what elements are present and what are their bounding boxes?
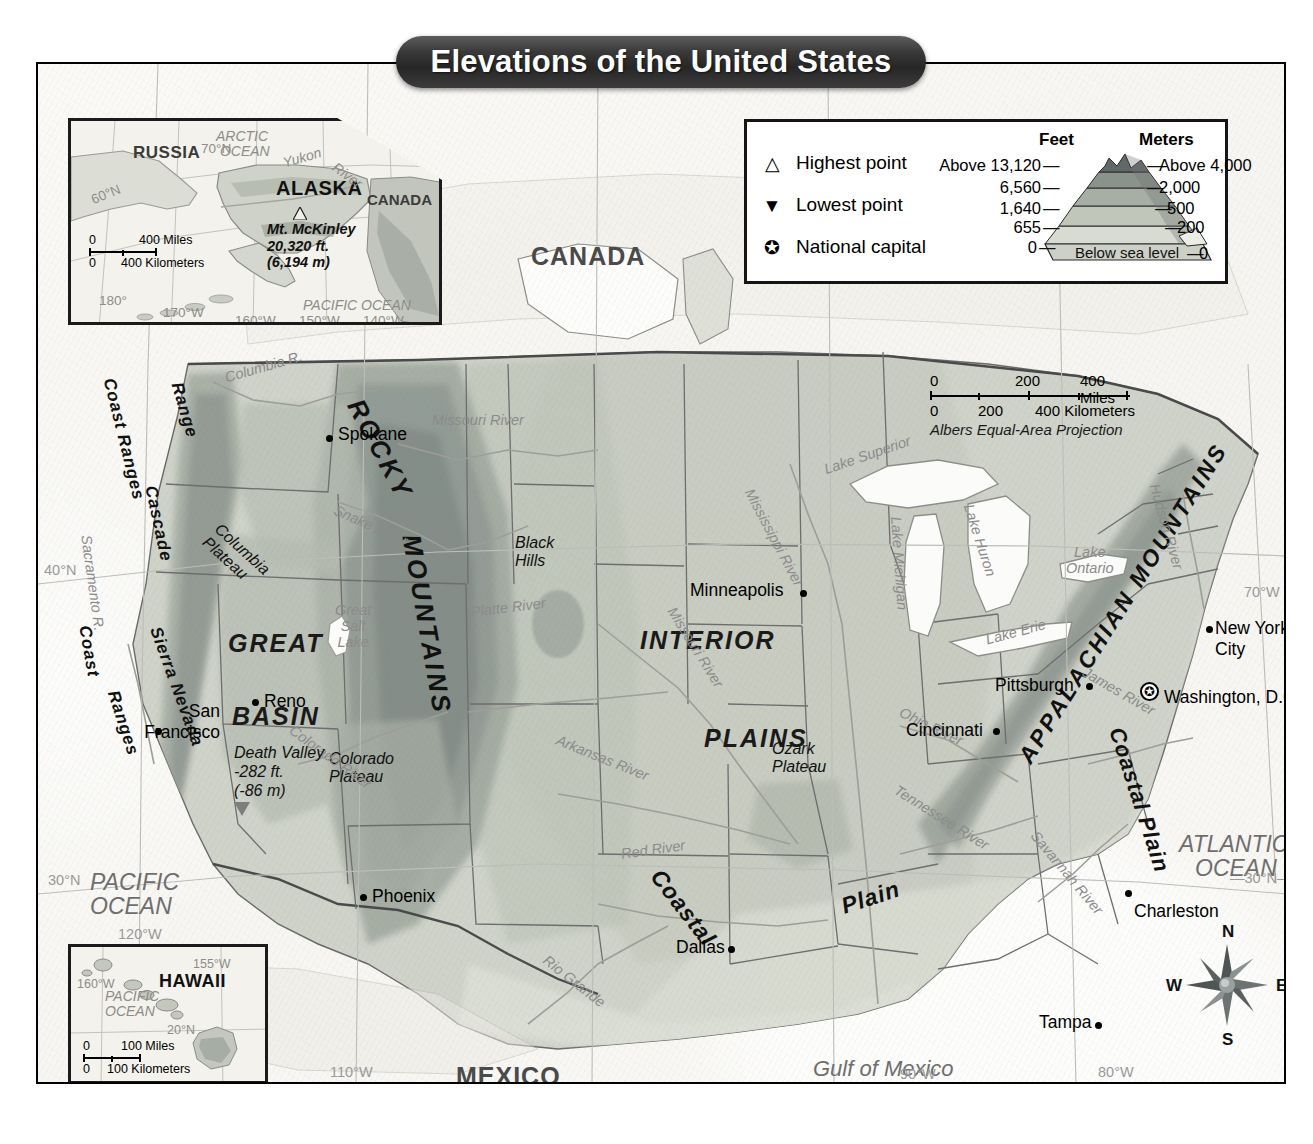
hawaii-graticule-155w: 155°W xyxy=(193,957,231,971)
legend-feet-tick-0: — xyxy=(1043,156,1059,175)
city-label-charleston: Charleston xyxy=(1134,901,1219,922)
legend-meters-header: Meters xyxy=(1139,130,1194,150)
label-mexico: MEXICO xyxy=(456,1062,561,1084)
graticule-30n-east: —30°N— xyxy=(1230,870,1286,886)
city-dot-phoenix xyxy=(360,894,367,901)
legend-label-lowest-point: Lowest point xyxy=(796,194,903,216)
scale-miles-max: 400 Miles xyxy=(1080,372,1130,406)
city-label-tampa: Tampa xyxy=(1039,1012,1092,1033)
alaska-label-pacific-ocean: PACIFIC OCEAN xyxy=(303,297,411,313)
scale-miles-zero: 0 xyxy=(930,372,938,389)
legend-feet-tick-2: — xyxy=(1043,199,1059,218)
alaska-scale-bar: 0 400 Miles 0 400 Kilometers xyxy=(89,233,219,271)
legend-meters-value-4: 0 xyxy=(1199,244,1208,263)
city-label-cincinnati: Cincinnati xyxy=(906,720,983,741)
hawaii-scale-bar: 0 100 Miles 0 100 Kilometers xyxy=(83,1039,208,1077)
graticule-80w: 80°W xyxy=(1098,1064,1134,1080)
map-page: CANADA MEXICO PACIFICOCEAN ATLANTICOCEAN… xyxy=(0,0,1313,1144)
legend-label-highest-point: Highest point xyxy=(796,152,907,174)
lowest-point-death-valley-label: Death Valley -282 ft. (-86 m) xyxy=(234,744,324,801)
national-capital-star-icon: ✪ xyxy=(761,238,783,257)
alaska-graticule-170w: 170°W xyxy=(163,305,204,320)
hawaii-label-pacific-ocean: PACIFICOCEAN xyxy=(105,989,159,1019)
hawaii-label-title: HAWAII xyxy=(159,971,226,992)
graticule-110w: 110°W xyxy=(330,1064,373,1080)
compass-west-label: W xyxy=(1166,976,1182,996)
alaska-inset: RUSSIA ARCTIC OCEAN CANADA ALASKA Yukon … xyxy=(68,118,442,325)
alaska-highest-point-label: Mt. McKinley 20,320 ft. (6,194 m) xyxy=(267,221,356,271)
legend-meters-value-2: 500 xyxy=(1167,199,1195,218)
label-river-missouri-upper: Missouri River xyxy=(432,412,524,428)
alaska-graticule-140w: 140°W xyxy=(363,313,404,325)
legend-meters-value-3: 200 xyxy=(1177,218,1205,237)
city-dot-san-francisco xyxy=(155,728,162,735)
map-title: Elevations of the United States xyxy=(431,44,892,80)
compass-rose-icon xyxy=(1184,942,1270,1028)
legend-meters-value-1: 2,000 xyxy=(1159,178,1200,197)
label-black-hills: BlackHills xyxy=(515,534,554,569)
alaska-scale-zero-km: 0 xyxy=(89,256,96,270)
legend-feet-header: Feet xyxy=(1039,130,1074,150)
alaska-graticule-150w: 150°W xyxy=(299,313,340,325)
alaska-scale-km: 400 Kilometers xyxy=(121,256,204,270)
label-canada: CANADA xyxy=(531,242,645,271)
alaska-label-russia: RUSSIA xyxy=(133,143,200,163)
alaska-graticule-70n: 70°N xyxy=(201,141,231,156)
alaska-highest-point-triangle-icon xyxy=(293,207,307,219)
legend-feet-value-2: 1,640 xyxy=(915,199,1041,218)
hawaii-graticule-20n: 20°N xyxy=(167,1023,195,1037)
scale-miles-mid: 200 xyxy=(1015,372,1040,389)
legend-feet-value-0: Above 13,120 xyxy=(915,156,1041,175)
city-label-phoenix: Phoenix xyxy=(372,886,435,907)
hawaii-scale-zero-miles: 0 xyxy=(83,1039,90,1053)
legend-entry-national-capital: ✪ National capital xyxy=(761,236,926,258)
compass-south-label: S xyxy=(1222,1030,1233,1050)
scale-km-max: 400 Kilometers xyxy=(1035,402,1135,419)
city-label-dallas: Dallas xyxy=(676,937,725,958)
alaska-scale-miles: 400 Miles xyxy=(139,233,193,247)
legend-label-national-capital: National capital xyxy=(796,236,926,258)
legend-feet-value-1: 6,560 xyxy=(915,178,1041,197)
scale-bar-graphic xyxy=(930,391,1130,400)
graticule-30n-west: 30°N xyxy=(48,872,80,888)
city-dot-reno xyxy=(252,699,259,706)
label-great-salt-lake: GreatSaltLake xyxy=(335,602,371,651)
label-pacific-ocean: PACIFICOCEAN xyxy=(90,870,179,918)
compass-rose: N E S W xyxy=(1184,942,1270,1028)
legend-feet-tick-3: — xyxy=(1043,218,1059,237)
label-lake-ontario: LakeOntario xyxy=(1066,544,1114,576)
alaska-graticule-180: 180° xyxy=(99,293,127,308)
legend-entry-highest-point: △ Highest point xyxy=(761,152,907,174)
lowest-point-triangle-icon: ▼ xyxy=(761,196,783,215)
city-dot-spokane xyxy=(326,435,333,442)
scale-bar-main: 0 200 400 Miles 0 200 400 Kilometers Alb… xyxy=(930,372,1145,438)
alaska-graticule-160w: 160°W xyxy=(235,313,276,325)
city-label-minneapolis: Minneapolis xyxy=(690,580,783,601)
alaska-scale-zero-miles: 0 xyxy=(89,233,96,247)
graticule-90w: 90°W xyxy=(900,1066,936,1082)
legend-feet-value-4: 0 xyxy=(915,238,1037,257)
lowest-point-triangle-icon xyxy=(234,802,250,816)
hawaii-scale-miles: 100 Miles xyxy=(121,1039,175,1053)
graticule-70w: 70°W xyxy=(1244,584,1280,600)
national-capital-star-icon: ✪ xyxy=(1140,682,1159,701)
city-label-new-york-city: New YorkCity xyxy=(1215,618,1286,660)
graticule-40n-west: 40°N xyxy=(44,562,76,578)
map-frame: CANADA MEXICO PACIFICOCEAN ATLANTICOCEAN… xyxy=(36,62,1286,1084)
hawaii-graticule-160w: 160°W xyxy=(77,977,115,991)
city-dot-dallas xyxy=(728,946,735,953)
legend-feet-tick-4: — xyxy=(1039,238,1055,257)
city-dot-charleston xyxy=(1125,890,1132,897)
hawaii-inset: HAWAII PACIFICOCEAN 155°W 160°W 20°N 0 1… xyxy=(68,944,268,1084)
legend-entry-lowest-point: ▼ Lowest point xyxy=(761,194,903,216)
map-title-banner: Elevations of the United States xyxy=(396,36,926,88)
highest-point-triangle-icon: △ xyxy=(761,154,783,173)
hawaii-scale-km: 100 Kilometers xyxy=(107,1062,190,1076)
city-dot-tampa xyxy=(1095,1022,1102,1029)
city-label-pittsburgh: Pittsburgh xyxy=(995,675,1074,696)
city-label-spokane: Spokane xyxy=(338,424,407,445)
label-great-basin-1: GREAT xyxy=(228,629,324,658)
legend-below-sea-level-label: Below sea level xyxy=(1047,244,1207,261)
compass-north-label: N xyxy=(1222,922,1234,942)
label-ozark-plateau: OzarkPlateau xyxy=(772,740,826,775)
